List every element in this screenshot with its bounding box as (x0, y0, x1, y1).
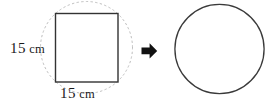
result-circle-shape (175, 4, 264, 93)
height-dimension-unit: cm (26, 42, 45, 56)
height-dimension-value: 15 (10, 40, 26, 56)
geometry-diagram: 15 cm 15 cm (0, 0, 277, 106)
height-dimension-label: 15 cm (10, 40, 45, 56)
right-arrow-icon (142, 43, 158, 58)
width-dimension-label: 15 cm (60, 85, 95, 101)
width-dimension-value: 15 (60, 85, 76, 101)
width-dimension-unit: cm (76, 87, 95, 101)
square-shape (56, 14, 119, 83)
